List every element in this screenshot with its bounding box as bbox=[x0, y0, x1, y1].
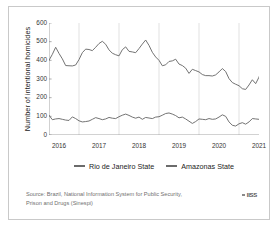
x-tick-label: 2017 bbox=[86, 143, 112, 149]
legend-label-amazonas: Amazonas State bbox=[181, 162, 234, 171]
chart-legend: Rio de Janeiro State Amazonas State bbox=[49, 159, 259, 173]
series-line-rio bbox=[49, 40, 259, 89]
y-tick-label: 300 bbox=[25, 76, 47, 82]
series-line-amazonas bbox=[49, 112, 259, 126]
source-line-1: Source: Brazil, National Information Sys… bbox=[26, 190, 216, 199]
x-tick-label: 2020 bbox=[206, 143, 232, 149]
gridlines bbox=[79, 23, 239, 135]
x-tick-label: 2019 bbox=[166, 143, 192, 149]
y-tick-label: 600 bbox=[25, 20, 47, 26]
y-axis-ticks: 0100200300400500600 bbox=[23, 23, 47, 135]
legend-item-amazonas: Amazonas State bbox=[166, 162, 234, 171]
x-tick-label: 2021 bbox=[246, 143, 272, 149]
source-note: Source: Brazil, National Information Sys… bbox=[26, 190, 216, 207]
legend-item-rio: Rio de Janeiro State bbox=[74, 162, 154, 171]
plot-area bbox=[49, 23, 259, 135]
chart-card: Number of intentional homicides 01002003… bbox=[8, 6, 270, 220]
logo-text: IISS bbox=[247, 192, 257, 198]
y-tick-label: 500 bbox=[25, 38, 47, 44]
logo-square-icon bbox=[242, 194, 244, 196]
source-line-2: Prison and Drugs (Sinespi) bbox=[26, 199, 216, 208]
line-chart-svg bbox=[49, 23, 259, 135]
legend-swatch-rio bbox=[74, 165, 85, 167]
x-tick-label: 2018 bbox=[126, 143, 152, 149]
legend-label-rio: Rio de Janeiro State bbox=[89, 162, 154, 171]
y-tick-label: 100 bbox=[25, 113, 47, 119]
y-tick-label: 0 bbox=[25, 132, 47, 138]
y-tick-label: 400 bbox=[25, 57, 47, 63]
x-tick-label: 2016 bbox=[46, 143, 72, 149]
y-tick-label: 200 bbox=[25, 94, 47, 100]
x-axis-ticks: 201620172018201920202021 bbox=[49, 140, 259, 152]
series-lines bbox=[49, 40, 259, 126]
legend-swatch-amazonas bbox=[166, 165, 177, 167]
iiss-logo: IISS bbox=[242, 192, 257, 198]
